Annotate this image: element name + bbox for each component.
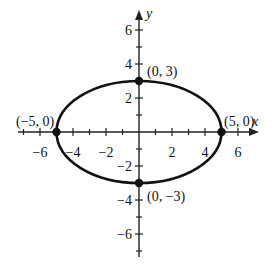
y-tick-label: −4 <box>117 193 132 208</box>
x-tick-label: 2 <box>169 145 176 160</box>
x-tick-label: −6 <box>33 145 48 160</box>
point-right-marker <box>217 128 225 136</box>
y-tick-label: 6 <box>125 23 132 38</box>
y-tick-label: −6 <box>117 227 132 242</box>
x-tick-label: 6 <box>235 145 242 160</box>
y-tick-label: −2 <box>117 159 132 174</box>
point-left-marker <box>52 128 60 136</box>
x-tick-label: −2 <box>99 145 114 160</box>
ellipse-graph: −6 −4 −2 2 4 6 x 6 4 2 −2 −4 <box>0 0 275 273</box>
point-top-marker <box>135 77 143 85</box>
point-right-label: (5, 0) <box>224 114 255 130</box>
point-bottom-marker <box>135 179 143 187</box>
y-axis-arrow-icon <box>135 10 143 20</box>
x-tick-label: 4 <box>202 145 209 160</box>
point-left-label: (−5, 0) <box>16 114 55 130</box>
x-axis-arrow-icon <box>249 128 259 136</box>
point-top-label: (0, 3) <box>147 64 178 80</box>
y-tick-label: 4 <box>125 57 132 72</box>
point-bottom-label: (0, −3) <box>147 189 186 205</box>
y-axis-label: y <box>144 6 153 21</box>
y-tick-label: 2 <box>125 91 132 106</box>
